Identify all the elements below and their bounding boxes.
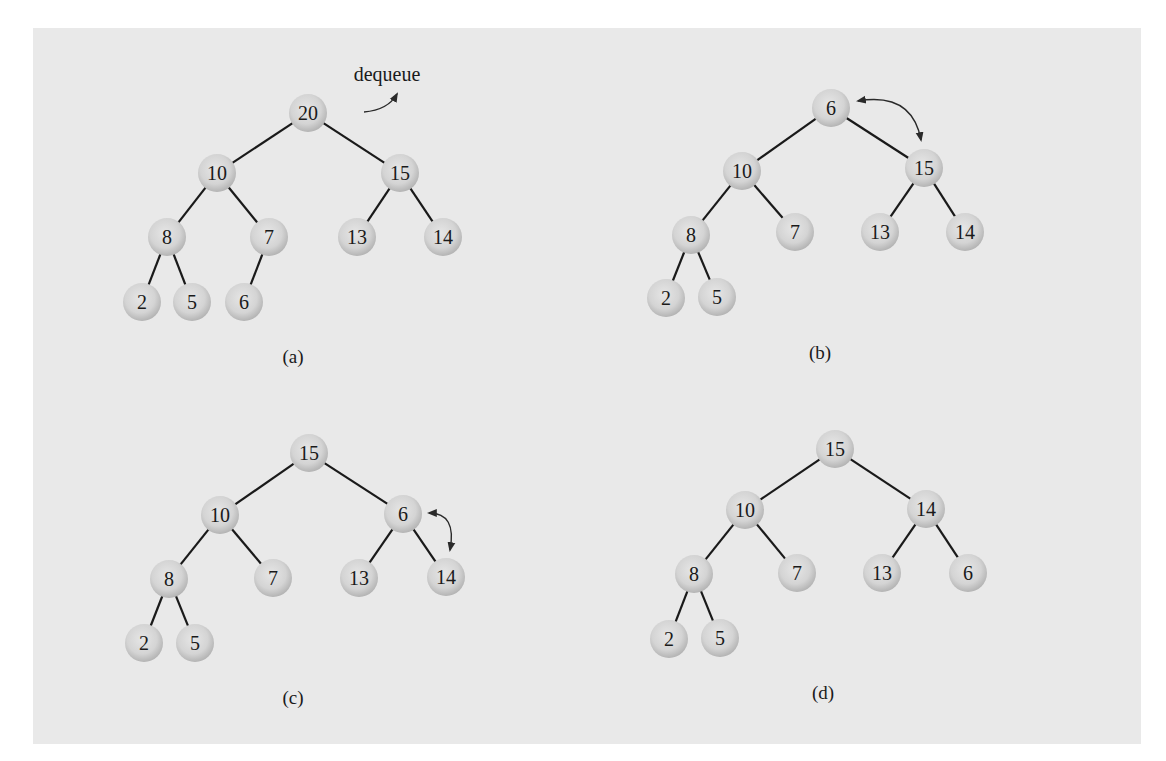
- tree-edge: [754, 185, 783, 219]
- heap-node: 15: [905, 149, 943, 187]
- node-value: 10: [735, 499, 755, 521]
- node-value: 15: [299, 442, 319, 464]
- node-value: 13: [870, 221, 890, 243]
- node-value: 14: [436, 566, 456, 588]
- heap-node: 6: [949, 554, 987, 592]
- node-value: 2: [137, 291, 147, 313]
- tree-edge: [890, 183, 914, 217]
- heap-node: 2: [125, 624, 163, 662]
- node-value: 2: [664, 628, 674, 650]
- tree-edge: [180, 529, 209, 565]
- node-value: 14: [955, 221, 975, 243]
- heap-node: 7: [776, 213, 814, 251]
- heap-node: 14: [946, 213, 984, 251]
- edges-layer: [148, 118, 958, 627]
- nodes-layer: 2010158713142566101587131425151068713142…: [123, 89, 987, 662]
- panel-caption: (b): [809, 342, 831, 364]
- tree-edge: [892, 524, 916, 558]
- heap-node: 8: [672, 216, 710, 254]
- swap-arrow-icon: [858, 100, 921, 140]
- heap-node: 13: [863, 554, 901, 592]
- tree-edge: [760, 459, 820, 500]
- heap-node: 5: [173, 283, 211, 321]
- node-value: 7: [264, 226, 274, 248]
- node-value: 7: [790, 221, 800, 243]
- node-value: 5: [715, 627, 725, 649]
- tree-edge: [675, 591, 687, 622]
- node-value: 2: [661, 287, 671, 309]
- heap-node: 13: [340, 559, 378, 597]
- heap-node: 14: [907, 490, 945, 528]
- tree-edge: [936, 524, 958, 558]
- tree-edge: [702, 185, 731, 221]
- node-value: 7: [792, 562, 802, 584]
- node-value: 14: [433, 226, 453, 248]
- tree-edge: [413, 529, 436, 562]
- node-value: 5: [187, 291, 197, 313]
- heap-node: 5: [176, 624, 214, 662]
- tree-edge: [250, 254, 262, 285]
- node-value: 8: [162, 226, 172, 248]
- heap-node: 8: [148, 218, 186, 256]
- panel-caption: (a): [282, 346, 303, 368]
- heap-node: 6: [225, 283, 263, 321]
- tree-edge: [934, 183, 956, 217]
- tree-edge: [367, 188, 390, 222]
- tree-edge: [178, 187, 206, 223]
- tree-edge: [148, 254, 160, 285]
- heap-node: 5: [698, 278, 736, 316]
- tree-edge: [323, 123, 385, 163]
- node-value: 20: [298, 102, 318, 124]
- tree-edge: [673, 252, 685, 282]
- panel-caption: (d): [812, 682, 834, 704]
- node-value: 10: [207, 162, 227, 184]
- node-value: 10: [210, 504, 230, 526]
- tree-edge: [173, 254, 185, 285]
- tree-edge: [757, 118, 817, 160]
- node-value: 6: [239, 291, 249, 313]
- heap-node: 7: [778, 554, 816, 592]
- node-value: 8: [164, 568, 174, 590]
- node-value: 10: [732, 160, 752, 182]
- node-value: 8: [686, 224, 696, 246]
- panel-caption: (c): [282, 687, 303, 709]
- tree-edge: [850, 459, 911, 499]
- dequeue-arrow-icon: [364, 94, 397, 112]
- dequeue-label: dequeue: [354, 63, 421, 86]
- node-value: 13: [347, 226, 367, 248]
- node-value: 7: [268, 567, 278, 589]
- swap-arrow-icon: [429, 513, 451, 550]
- tree-edge: [698, 252, 710, 281]
- tree-edge: [705, 524, 734, 560]
- node-value: 6: [826, 97, 836, 119]
- node-value: 13: [349, 567, 369, 589]
- tree-edge: [410, 188, 433, 222]
- heap-node: 5: [701, 619, 739, 657]
- heap-node: 2: [650, 620, 688, 658]
- heap-node: 8: [150, 560, 188, 598]
- heap-node: 7: [254, 559, 292, 597]
- heap-node: 14: [427, 558, 465, 596]
- node-value: 6: [963, 562, 973, 584]
- arrows-layer: [364, 94, 921, 550]
- tree-edge: [235, 463, 294, 504]
- node-value: 8: [689, 563, 699, 585]
- heap-node: 10: [201, 496, 239, 534]
- heap-node: 10: [726, 491, 764, 529]
- node-value: 15: [390, 162, 410, 184]
- heap-node: 20: [289, 94, 327, 132]
- tree-edge: [369, 529, 393, 563]
- node-value: 5: [712, 286, 722, 308]
- tree-edge: [232, 529, 262, 564]
- node-value: 14: [916, 498, 936, 520]
- node-value: 15: [825, 438, 845, 460]
- tree-edge: [151, 596, 163, 626]
- heap-node: 7: [250, 218, 288, 256]
- heap-node: 15: [816, 430, 854, 468]
- tree-edge: [324, 463, 388, 504]
- node-value: 5: [190, 632, 200, 654]
- heap-node: 10: [198, 154, 236, 192]
- heap-node: 15: [290, 434, 328, 472]
- node-value: 2: [139, 632, 149, 654]
- heap-node: 14: [424, 218, 462, 256]
